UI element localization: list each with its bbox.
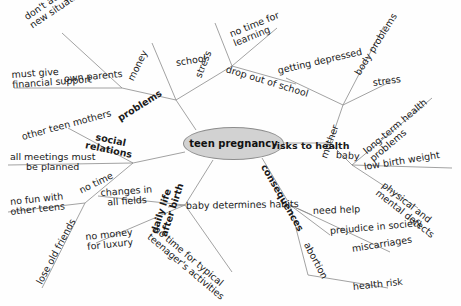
node-baby-determines-habits[interactable]: baby determines habits bbox=[186, 199, 299, 212]
node-need-help[interactable]: need help bbox=[313, 204, 361, 216]
center-node-label: teen pregnancy bbox=[189, 138, 277, 149]
center-node[interactable]: teen pregnancy bbox=[183, 127, 284, 160]
node-changes-in-all-fields[interactable]: changes in all fields bbox=[100, 184, 153, 207]
node-baby-determines-label: baby determines habits bbox=[186, 199, 299, 212]
edge-center-problems bbox=[176, 100, 196, 130]
mind-map-canvas: teen pregnancy problems risks to health … bbox=[0, 0, 461, 306]
edge-center-daily bbox=[185, 160, 213, 205]
node-need-help-label: need help bbox=[313, 204, 361, 216]
node-all-meetings-must-be-planned[interactable]: all meetings must be planned bbox=[10, 152, 95, 172]
node-baby-label: baby bbox=[336, 150, 360, 162]
node-all-meetings-line2: be planned bbox=[10, 162, 95, 172]
edge-center-social bbox=[133, 152, 185, 163]
node-baby[interactable]: baby bbox=[336, 150, 360, 162]
